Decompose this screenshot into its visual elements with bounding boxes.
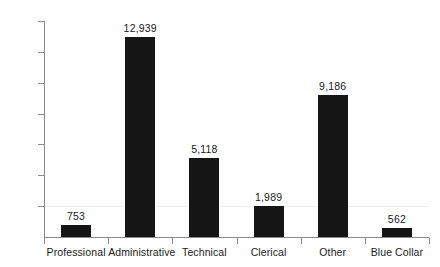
y-tick-mark [38,83,44,84]
bar-value-label: 1,989 [255,191,282,203]
category-label: Blue Collar [365,246,429,258]
x-tick-mark [429,238,430,244]
y-tick-mark [38,114,44,115]
bar-value-label: 5,118 [191,143,218,155]
bar: 1,989 [254,206,284,237]
y-tick-mark [38,175,44,176]
bar: 753 [61,225,91,237]
x-tick-mark [44,238,45,244]
category-label: Clerical [237,246,301,258]
bar: 562 [382,228,412,237]
bar-value-label: 12,939 [124,22,157,34]
bar: 9,186 [318,95,348,237]
bar-chart: 2,0004,0006,0008,0000,0002,0004,000 7531… [0,0,440,267]
x-tick-mark [365,238,366,244]
bar: 12,939 [125,37,155,237]
category-label: Administrative [108,246,172,258]
bar: 5,118 [189,158,219,237]
category-label: Other [301,246,365,258]
y-tick-mark [38,206,44,207]
x-tick-mark [237,238,238,244]
y-tick-mark [38,144,44,145]
y-tick-mark [38,21,44,22]
gridline-2000 [45,206,429,207]
x-tick-mark [301,238,302,244]
category-label: Technical [172,246,236,258]
x-tick-mark [108,238,109,244]
bar-value-label: 9,186 [319,80,346,92]
category-label: Professional [44,246,108,258]
y-tick-mark [38,52,44,53]
x-tick-mark [172,238,173,244]
bar-value-label: 753 [67,210,85,222]
bar-value-label: 562 [388,213,406,225]
